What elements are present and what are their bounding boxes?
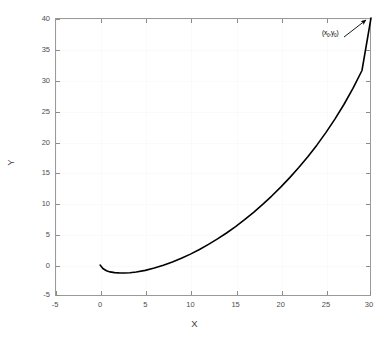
gridline-vertical (101, 19, 102, 295)
y-tick-right (366, 173, 370, 174)
y-tick-label: 35 (30, 44, 50, 53)
x-tick (370, 291, 371, 295)
x-tick-label: 5 (143, 300, 147, 309)
y-tick-label: 0 (30, 261, 50, 270)
y-axis-title: Y (5, 159, 16, 165)
gridline-horizontal (56, 19, 370, 20)
gridline-vertical (56, 19, 57, 295)
gridline-horizontal (56, 50, 370, 51)
y-tick-label: 5 (30, 230, 50, 239)
y-tick-label: -5 (30, 290, 50, 299)
x-tick (146, 291, 147, 295)
endpoint-annotation-label: (x0,y0) (322, 29, 338, 38)
x-tick-label: 15 (231, 300, 239, 309)
y-tick-label: 25 (30, 106, 50, 115)
gridline-horizontal (56, 204, 370, 205)
figure-canvas: -5 0 5 10 15 20 25 30 -5 0 5 10 15 20 25… (0, 0, 389, 338)
y-tick (56, 81, 60, 82)
y-tick-right (366, 112, 370, 113)
x-tick-label: 25 (322, 300, 330, 309)
gridline-horizontal (56, 143, 370, 144)
y-tick-right (366, 81, 370, 82)
y-tick (56, 112, 60, 113)
x-tick (101, 291, 102, 295)
gridline-vertical (237, 19, 238, 295)
gridline-vertical (282, 19, 283, 295)
x-tick-top (327, 19, 328, 23)
y-tick (56, 19, 60, 20)
x-tick-label: 30 (365, 300, 373, 309)
gridline-horizontal (56, 173, 370, 174)
annotation-text-close: ) (336, 29, 338, 36)
x-tick (282, 291, 283, 295)
x-tick-top (146, 19, 147, 23)
gridline-horizontal (56, 235, 370, 236)
y-tick (56, 173, 60, 174)
x-tick-label: 20 (277, 300, 285, 309)
y-tick (56, 266, 60, 267)
x-axis-title: X (0, 318, 389, 329)
y-tick-label: 10 (30, 199, 50, 208)
y-tick-right (366, 266, 370, 267)
x-tick-top (191, 19, 192, 23)
gridline-vertical (327, 19, 328, 295)
y-tick-label: 15 (30, 168, 50, 177)
gridline-horizontal (56, 81, 370, 82)
y-tick-right (366, 204, 370, 205)
y-tick (56, 295, 60, 296)
y-tick-label: 30 (30, 75, 50, 84)
gridline-vertical (191, 19, 192, 295)
y-tick (56, 50, 60, 51)
plot-area (55, 18, 371, 296)
x-tick-top (282, 19, 283, 23)
y-tick (56, 235, 60, 236)
gridline-horizontal (56, 112, 370, 113)
x-tick-label: 0 (98, 300, 102, 309)
x-tick-label: -5 (52, 300, 59, 309)
x-tick (237, 291, 238, 295)
gridline-horizontal (56, 266, 370, 267)
y-tick-right (366, 235, 370, 236)
x-tick-top (101, 19, 102, 23)
x-tick-top (237, 19, 238, 23)
y-tick-label: 20 (30, 137, 50, 146)
x-tick-label: 10 (186, 300, 194, 309)
y-tick (56, 143, 60, 144)
y-tick-right (366, 143, 370, 144)
y-tick (56, 204, 60, 205)
x-tick (191, 291, 192, 295)
gridline-vertical (146, 19, 147, 295)
x-tick (327, 291, 328, 295)
y-tick-right (366, 50, 370, 51)
y-tick-label: 40 (30, 14, 50, 23)
